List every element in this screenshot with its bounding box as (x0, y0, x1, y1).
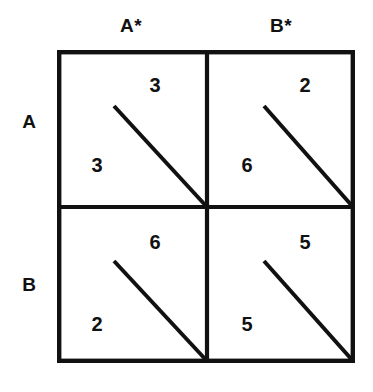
column-header-b-star: B* (236, 13, 326, 39)
cell-diagonal-row-b-col-a-star (114, 261, 207, 361)
row-header-b: B (8, 273, 50, 297)
payoff-row-b-col-a-star-row-player: 2 (80, 312, 114, 336)
payoff-matrix-figure: A* B* A B 3 3 2 6 6 2 5 5 (0, 0, 373, 392)
cell-diagonal-row-a-col-b-star (264, 106, 353, 207)
payoff-row-a-col-a-star-row-player: 3 (80, 153, 114, 177)
payoff-row-b-col-a-star-column-player: 6 (138, 230, 172, 254)
payoff-row-b-col-b-star-row-player: 5 (230, 312, 264, 336)
cell-diagonal-row-b-col-b-star (264, 261, 353, 361)
payoff-row-a-col-a-star-column-player: 3 (138, 73, 172, 97)
payoff-row-b-col-b-star-column-player: 5 (288, 230, 322, 254)
cell-diagonal-row-a-col-a-star (114, 106, 207, 207)
column-header-a-star: A* (86, 13, 176, 39)
row-header-a: A (8, 110, 50, 134)
payoff-row-a-col-b-star-row-player: 6 (230, 153, 264, 177)
payoff-row-a-col-b-star-column-player: 2 (288, 73, 322, 97)
matrix-grid: 3 3 2 6 6 2 5 5 (57, 50, 355, 363)
